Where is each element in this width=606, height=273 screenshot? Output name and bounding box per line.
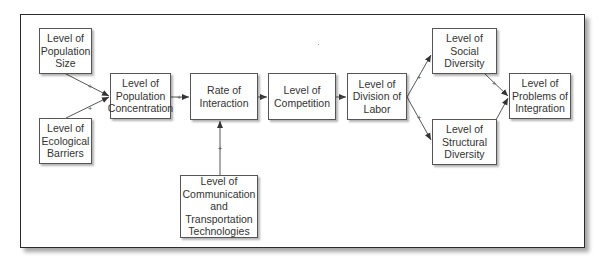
sign-label: + xyxy=(260,93,265,102)
node-problems-of-integration: Level of Problems of Integration xyxy=(509,73,571,119)
node-population-size: Level of Population Size xyxy=(39,28,92,74)
sign-label: + xyxy=(417,73,422,82)
node-rate-of-interaction: Rate of Interaction xyxy=(190,73,258,120)
sign-label: + xyxy=(88,82,93,91)
sign-label: + xyxy=(417,113,422,122)
node-ecological-barriers: Level of Ecological Barriers xyxy=(39,118,92,164)
node-population-concentration: Level of Population Concentration xyxy=(110,73,171,119)
sign-label: + xyxy=(339,93,344,102)
sign-label: + xyxy=(177,93,182,102)
node-communication-transportation: Level of Communication and Transportatio… xyxy=(180,175,258,238)
node-structural-diversity: Level of Structural Diversity xyxy=(432,119,497,165)
node-competition: Level of Competition xyxy=(268,73,336,120)
sign-label: + xyxy=(492,79,497,88)
sign-label: + xyxy=(88,104,93,113)
sign-label: + xyxy=(218,144,223,153)
node-social-diversity: Level of Social Diversity xyxy=(432,28,497,74)
node-division-of-labor: Level of Division of Labor xyxy=(347,73,407,120)
edge-social-to-integration xyxy=(485,74,508,96)
